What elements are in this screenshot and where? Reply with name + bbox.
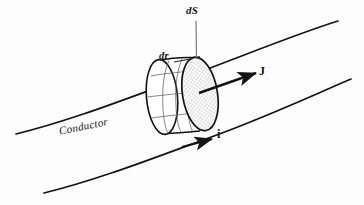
label-current: i — [217, 128, 220, 140]
diagram-canvas — [0, 0, 364, 205]
current-arrow — [182, 139, 212, 147]
label-current-density: J — [259, 65, 265, 77]
physics-diagram-figure: dS dr J i Conductor — [0, 0, 364, 205]
label-dr: dr — [159, 51, 169, 62]
ds-leader-line — [196, 21, 197, 59]
label-ds: dS — [186, 5, 198, 16]
